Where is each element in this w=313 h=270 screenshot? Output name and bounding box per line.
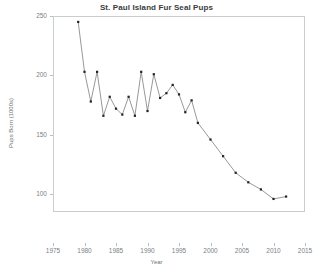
x-tick-label: 2005	[227, 247, 257, 254]
x-tick-label: 1980	[70, 247, 100, 254]
chart-container: St. Paul Island Fur Seal Pups 1001502002…	[0, 0, 313, 270]
x-tick-label: 1995	[164, 247, 194, 254]
y-tick-label: 150	[21, 131, 47, 138]
x-tick-label: 1985	[101, 247, 131, 254]
chart-title: St. Paul Island Fur Seal Pups	[0, 3, 313, 12]
x-tick-label: 1990	[133, 247, 163, 254]
y-tick-label: 200	[21, 71, 47, 78]
y-tick-label: 250	[21, 12, 47, 19]
x-tick-mark	[53, 243, 54, 246]
x-tick-mark	[179, 243, 180, 246]
x-tick-mark	[274, 243, 275, 246]
x-tick-mark	[116, 243, 117, 246]
x-axis-label: Year	[0, 259, 313, 265]
x-tick-label: 1975	[38, 247, 68, 254]
x-tick-label: 2010	[259, 247, 289, 254]
x-tick-mark	[211, 243, 212, 246]
y-tick-mark	[50, 75, 53, 76]
x-tick-label: 2015	[290, 247, 313, 254]
x-tick-mark	[305, 243, 306, 246]
y-tick-label: 100	[21, 190, 47, 197]
x-tick-mark	[242, 243, 243, 246]
y-tick-mark	[50, 135, 53, 136]
x-tick-label: 2000	[196, 247, 226, 254]
y-tick-mark	[50, 194, 53, 195]
y-axis-label: Pups Born (1000s)	[8, 88, 14, 158]
plot-area	[53, 16, 305, 212]
x-tick-mark	[85, 243, 86, 246]
x-tick-mark	[148, 243, 149, 246]
y-tick-mark	[50, 16, 53, 17]
